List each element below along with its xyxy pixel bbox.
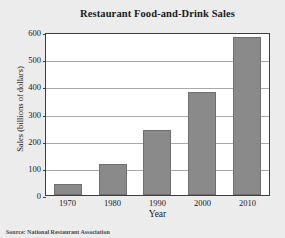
x-tick-label: 1980	[90, 198, 135, 208]
bar-series	[46, 34, 269, 195]
bar-slot	[224, 34, 269, 195]
y-tick-label: 500	[14, 56, 41, 65]
bar-slot	[180, 34, 225, 195]
x-tick-label: 1970	[45, 198, 90, 208]
x-axis-title: Year	[45, 209, 270, 219]
x-tick-label: 2010	[225, 198, 270, 208]
y-tick-label: 300	[14, 110, 41, 119]
bar-1990	[143, 130, 171, 195]
bar-1980	[99, 164, 127, 195]
bar-2010	[233, 37, 261, 195]
y-tick-label: 100	[14, 165, 41, 174]
chart-title: Restaurant Food-and-Drink Sales	[45, 8, 270, 19]
bar-slot	[135, 34, 180, 195]
chart-figure: Restaurant Food-and-Drink Sales Sales (b…	[0, 0, 285, 238]
bar-1970	[54, 184, 82, 195]
y-tick-label: 600	[14, 29, 41, 38]
bar-2000	[188, 92, 216, 195]
plot-frame	[45, 33, 270, 196]
bar-slot	[91, 34, 136, 195]
x-tick-label: 2000	[180, 198, 225, 208]
bar-slot	[46, 34, 91, 195]
y-tick-label: 200	[14, 137, 41, 146]
y-axis-tick-labels: 6005004003002001000	[14, 33, 41, 196]
source-note: Source: National Restaurant Association	[6, 229, 110, 235]
x-tick-label: 1990	[135, 198, 180, 208]
y-tick-label: 0	[14, 192, 41, 201]
x-axis-tick-labels: 19701980199020002010	[45, 198, 270, 208]
y-tick-label: 400	[14, 83, 41, 92]
